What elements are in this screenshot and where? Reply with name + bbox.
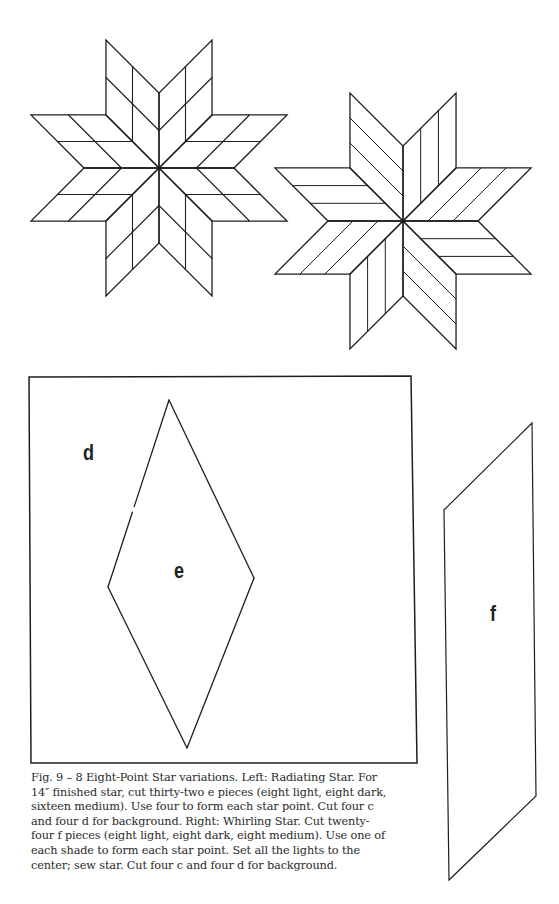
caption-line: Fig. 9 – 8 Eight-Point Star variations. …	[31, 771, 431, 786]
caption-line: sixteen medium). Use four to form each s…	[31, 800, 431, 815]
radiating-star-diagram	[31, 40, 287, 296]
figure-caption: Fig. 9 – 8 Eight-Point Star variations. …	[31, 771, 431, 873]
label-piece-f: f	[490, 601, 496, 627]
whirling-star-diagram	[275, 93, 531, 349]
background-block-d-template	[29, 376, 417, 763]
parallelogram-piece-f-template	[444, 423, 536, 880]
label-piece-e: e	[174, 558, 184, 584]
caption-line: and four d for background. Right: Whirli…	[31, 815, 431, 830]
caption-line: four f pieces (eight light, eight dark, …	[31, 829, 431, 844]
label-piece-d: d	[83, 440, 94, 466]
caption-line: each shade to form each star point. Set …	[31, 844, 431, 859]
caption-line: 14″ finished star, cut thirty-two e piec…	[31, 786, 431, 801]
caption-line: center; sew star. Cut four c and four d …	[31, 859, 431, 874]
